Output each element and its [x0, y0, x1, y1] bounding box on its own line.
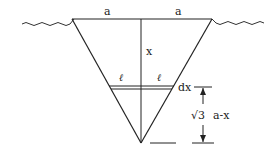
arrow-down-icon [200, 135, 206, 142]
water-surface-left [22, 19, 74, 26]
label-a-left: a [104, 6, 111, 17]
label-x: x [146, 46, 152, 57]
triangular-trough-diagram: a a x ℓ ℓ dx √3 a-x [0, 0, 280, 155]
diagram-svg [0, 0, 280, 155]
left-side [72, 19, 141, 143]
arrow-up-icon [200, 88, 206, 95]
label-ell-right: ℓ [157, 73, 161, 83]
label-a-right: a [175, 6, 182, 17]
label-sqrt3: √3 [191, 110, 205, 121]
label-dx: dx [178, 82, 191, 93]
label-a-minus-x: a-x [213, 110, 229, 121]
label-ell-left: ℓ [119, 73, 123, 83]
right-side [141, 19, 212, 143]
water-surface-right [212, 19, 264, 25]
